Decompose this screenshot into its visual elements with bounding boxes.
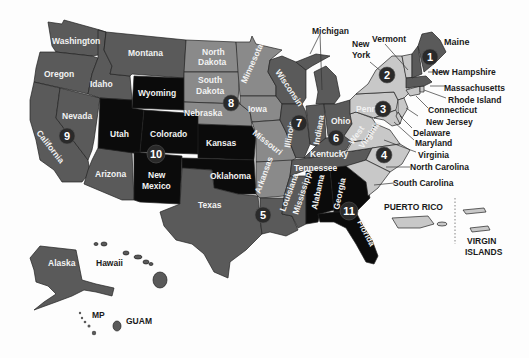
- label-massachusetts: Massachusetts: [444, 83, 505, 93]
- label-new-mexico-1: New: [148, 170, 166, 180]
- guam-island: [113, 321, 121, 331]
- svg-text:3: 3: [380, 103, 386, 115]
- label-washington: Washington: [52, 36, 100, 46]
- region-badge-1[interactable]: 1: [422, 49, 438, 65]
- region-badge-9[interactable]: 9: [59, 128, 75, 144]
- label-vermont: Vermont: [372, 34, 406, 44]
- label-utah: Utah: [110, 129, 129, 139]
- territory-puerto-rico[interactable]: [392, 216, 434, 228]
- label-south-dakota-1: South: [198, 75, 222, 85]
- label-virgin-islands-1: VIRGIN: [467, 236, 496, 246]
- label-rhode-island: Rhode Island: [448, 95, 501, 105]
- territory-virgin-islands[interactable]: [463, 208, 486, 214]
- svg-text:1: 1: [427, 51, 433, 63]
- label-idaho: Idaho: [90, 79, 113, 89]
- label-pennsylvania: Penn: [356, 104, 377, 114]
- label-tennessee: Tennessee: [294, 163, 338, 173]
- region-badge-6[interactable]: 6: [328, 130, 344, 146]
- svg-text:11: 11: [343, 205, 355, 217]
- region-badge-8[interactable]: 8: [223, 95, 239, 111]
- label-new-jersey: New Jersey: [426, 117, 473, 127]
- svg-text:10: 10: [150, 148, 162, 160]
- label-guam: GUAM: [126, 316, 152, 326]
- svg-text:2: 2: [384, 69, 390, 81]
- label-maryland: Maryland: [415, 138, 452, 148]
- label-nebraska: Nebraska: [184, 108, 223, 118]
- label-montana: Montana: [128, 48, 163, 58]
- label-maine: Maine: [444, 37, 470, 47]
- label-south-carolina: South Carolina: [393, 178, 454, 188]
- svg-text:5: 5: [260, 209, 266, 221]
- state-alaska[interactable]: [30, 246, 114, 310]
- label-ohio: Ohio: [331, 116, 350, 126]
- label-wyoming: Wyoming: [138, 88, 176, 98]
- region-badge-2[interactable]: 2: [379, 67, 395, 83]
- label-alaska: Alaska: [48, 258, 76, 268]
- svg-text:6: 6: [333, 132, 339, 144]
- virgin-islands-st-croix[interactable]: [470, 226, 490, 232]
- us-regions-map: Washington Montana Oregon Idaho Wyoming …: [0, 0, 529, 358]
- label-kansas: Kansas: [206, 138, 237, 148]
- label-colorado: Colorado: [150, 129, 187, 139]
- label-puerto-rico: PUERTO RICO: [384, 202, 443, 212]
- state-massachusetts[interactable]: [406, 76, 432, 88]
- label-north-dakota-2: Dakota: [198, 57, 227, 67]
- label-oregon: Oregon: [44, 69, 74, 79]
- label-michigan: Michigan: [312, 26, 349, 36]
- region-badge-4[interactable]: 4: [376, 147, 392, 163]
- label-texas: Texas: [198, 200, 222, 210]
- label-kentucky: Kentucky: [310, 149, 349, 159]
- label-arizona: Arizona: [95, 169, 126, 179]
- svg-text:8: 8: [228, 97, 234, 109]
- region-badge-5[interactable]: 5: [255, 207, 271, 223]
- label-iowa: Iowa: [248, 104, 267, 114]
- state-rhode-island[interactable]: [420, 86, 424, 92]
- pr-islet: [437, 222, 447, 226]
- label-new-mexico-2: Mexico: [142, 181, 171, 191]
- region-badge-10[interactable]: 10: [147, 145, 165, 163]
- label-virgin-islands-2: ISLANDS: [465, 247, 503, 257]
- label-new-hampshire: New Hampshire: [432, 67, 496, 77]
- label-south-dakota-2: Dakota: [196, 86, 225, 96]
- label-virginia: Virginia: [418, 150, 449, 160]
- label-oklahoma: Oklahoma: [210, 171, 251, 181]
- label-north-dakota-1: North: [202, 47, 225, 57]
- label-new-york-1: New: [352, 39, 370, 49]
- label-connecticut: Connecticut: [428, 105, 477, 115]
- label-new-york-2: York: [352, 50, 371, 60]
- region-badge-11[interactable]: 11: [340, 202, 358, 220]
- label-north-carolina: North Carolina: [410, 162, 469, 172]
- svg-text:7: 7: [296, 117, 302, 129]
- svg-text:9: 9: [64, 130, 70, 142]
- region-badge-3[interactable]: 3: [375, 101, 391, 117]
- region-badge-7[interactable]: 7: [291, 115, 307, 131]
- label-mp: MP: [92, 310, 105, 320]
- label-nevada: Nevada: [62, 111, 93, 121]
- label-hawaii: Hawaii: [96, 258, 123, 268]
- svg-text:4: 4: [381, 149, 388, 161]
- label-delaware: Delaware: [413, 128, 451, 138]
